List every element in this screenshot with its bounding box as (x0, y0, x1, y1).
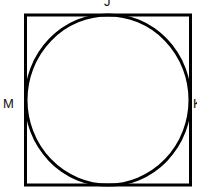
diagram-canvas (0, 0, 197, 194)
label-k: K (193, 97, 197, 110)
label-m: M (3, 97, 14, 110)
inscribed-circle (26, 15, 190, 185)
label-j: J (104, 0, 111, 8)
